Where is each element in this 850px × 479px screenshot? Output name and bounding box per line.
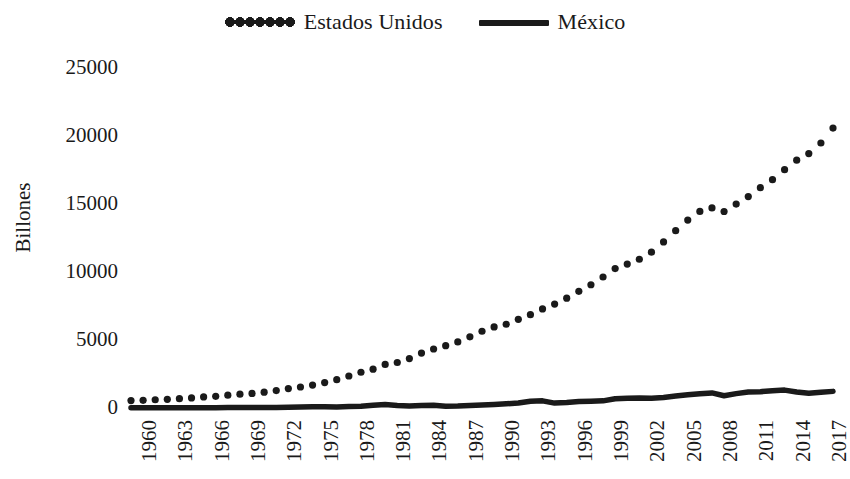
x-axis-tick-label: 1987 bbox=[466, 420, 487, 462]
x-axis-tick-label: 2002 bbox=[647, 420, 668, 462]
x-axis-tick-label: 1972 bbox=[284, 420, 305, 462]
x-axis-tick-label: 2011 bbox=[756, 420, 777, 461]
x-axis-tick-label: 1993 bbox=[538, 420, 559, 462]
x-axis-tick-label: 1969 bbox=[248, 420, 269, 462]
x-axis-tick-label: 1960 bbox=[139, 420, 160, 462]
x-axis-tick-label: 1963 bbox=[175, 420, 196, 462]
x-axis-tick-label: 2017 bbox=[829, 420, 850, 462]
x-axis-tick-labels: 1960196319661969197219751978198119841987… bbox=[0, 0, 850, 479]
chart-figure: Estados Unidos México Billones 050001000… bbox=[0, 0, 850, 479]
x-axis-tick-label: 2005 bbox=[684, 420, 705, 462]
x-axis-tick-label: 1981 bbox=[393, 420, 414, 462]
x-axis-tick-label: 1975 bbox=[321, 420, 342, 462]
x-axis-tick-label: 1999 bbox=[611, 420, 632, 462]
x-axis-tick-label: 1966 bbox=[212, 420, 233, 462]
x-axis-tick-label: 1984 bbox=[429, 420, 450, 462]
x-axis-tick-label: 2014 bbox=[793, 420, 814, 462]
x-axis-tick-label: 1996 bbox=[575, 420, 596, 462]
x-axis-tick-label: 1978 bbox=[357, 420, 378, 462]
x-axis-tick-label: 1990 bbox=[502, 420, 523, 462]
x-axis-tick-label: 2008 bbox=[720, 420, 741, 462]
